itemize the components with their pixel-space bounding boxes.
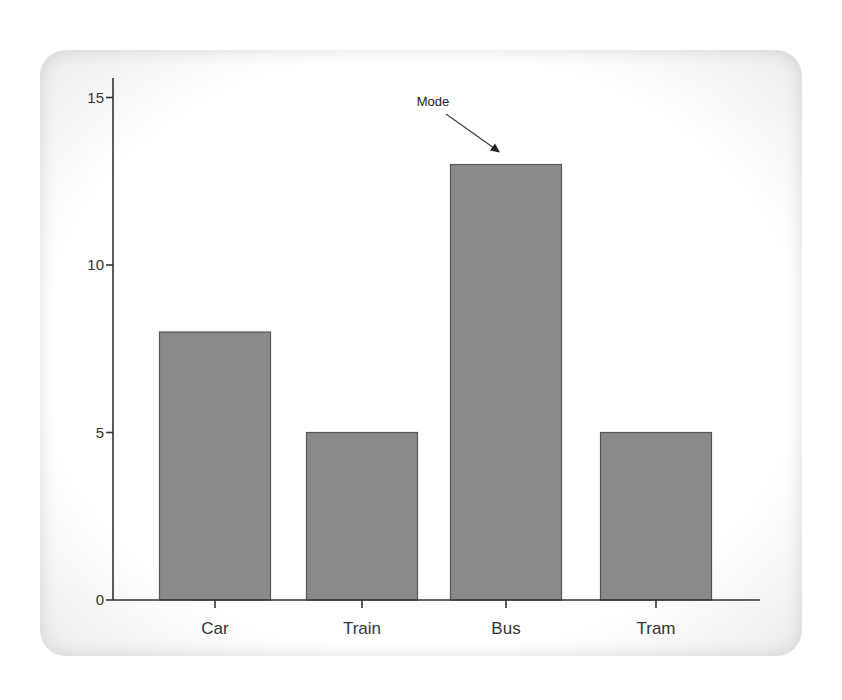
y-tick-label: 10 [87, 256, 104, 273]
annotation-arrowhead-icon [490, 144, 500, 153]
x-tick-label-bus: Bus [491, 619, 520, 638]
y-tick-label: 5 [96, 424, 104, 441]
x-tick-label-tram: Tram [636, 619, 675, 638]
y-tick-label: 15 [87, 89, 104, 106]
x-tick-label-train: Train [343, 619, 381, 638]
x-tick-label-car: Car [201, 619, 229, 638]
annotation-arrow-line [446, 114, 496, 150]
bar-bus [451, 165, 562, 601]
y-tick-label: 0 [96, 591, 104, 608]
bar-car [160, 332, 271, 600]
bar-chart: 051015CarTrainBusTramMode [0, 0, 842, 700]
bar-train [307, 433, 418, 601]
annotation-label: Mode [417, 94, 450, 109]
bar-tram [601, 433, 712, 601]
